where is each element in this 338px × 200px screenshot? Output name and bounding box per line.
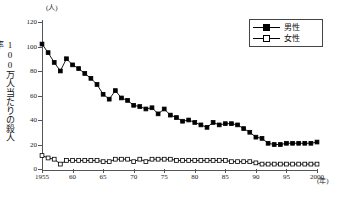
- data-point-marker: [187, 118, 191, 122]
- y-tick-label: 80: [30, 68, 37, 75]
- data-point-marker: [291, 141, 295, 145]
- data-point-marker: [113, 157, 117, 161]
- data-point-marker: [278, 162, 282, 166]
- data-point-marker: [58, 162, 62, 166]
- data-point-marker: [315, 140, 319, 144]
- y-tick-label: 100: [27, 43, 38, 50]
- x-tick-label: 75: [161, 174, 168, 181]
- data-point-marker: [71, 159, 75, 163]
- data-point-marker: [242, 160, 246, 164]
- x-tick-label: 95: [283, 174, 290, 181]
- data-point-marker: [260, 162, 264, 166]
- x-tick-label: 90: [252, 174, 259, 181]
- data-point-marker: [211, 159, 215, 163]
- data-point-marker: [175, 116, 179, 120]
- data-point-marker: [77, 67, 81, 71]
- data-point-marker: [205, 125, 209, 129]
- data-point-marker: [254, 135, 258, 139]
- data-point-marker: [77, 159, 81, 163]
- data-point-marker: [199, 159, 203, 163]
- data-point-marker: [156, 157, 160, 161]
- series-line-male: [42, 44, 317, 144]
- data-point-marker: [120, 157, 124, 161]
- data-point-marker: [291, 162, 295, 166]
- x-tick-label: 60: [69, 174, 76, 181]
- data-point-marker: [242, 127, 246, 131]
- y-tick-label: 0: [34, 166, 38, 173]
- data-point-marker: [187, 159, 191, 163]
- x-tick-label: 1955: [35, 174, 49, 181]
- data-point-marker: [254, 161, 258, 165]
- data-point-marker: [150, 106, 154, 110]
- data-point-marker: [40, 42, 44, 46]
- data-point-marker: [285, 162, 289, 166]
- data-point-marker: [65, 57, 69, 61]
- data-point-marker: [168, 113, 172, 117]
- data-point-marker: [156, 112, 160, 116]
- data-point-marker: [126, 157, 130, 161]
- data-point-marker: [230, 160, 234, 164]
- data-point-marker: [52, 157, 56, 161]
- data-point-marker: [101, 92, 105, 96]
- data-point-marker: [248, 160, 252, 164]
- y-axis-title: 100万人当たりの殺人率: [4, 40, 15, 150]
- legend-item-male: 男性: [253, 22, 319, 33]
- data-point-marker: [211, 121, 215, 125]
- data-point-marker: [132, 103, 136, 107]
- data-point-marker: [52, 61, 56, 65]
- data-point-marker: [236, 123, 240, 127]
- data-point-marker: [266, 141, 270, 145]
- data-point-marker: [89, 76, 93, 80]
- x-tick-label: 85: [222, 174, 229, 181]
- data-point-marker: [309, 141, 313, 145]
- legend: 男性 女性: [249, 19, 323, 47]
- data-point-marker: [217, 159, 221, 163]
- data-point-marker: [101, 160, 105, 164]
- data-point-marker: [71, 63, 75, 67]
- data-point-marker: [236, 160, 240, 164]
- data-point-marker: [95, 159, 99, 163]
- data-point-marker: [107, 160, 111, 164]
- data-point-marker: [193, 121, 197, 125]
- y-tick-label: 60: [30, 92, 37, 99]
- data-point-marker: [217, 123, 221, 127]
- data-point-marker: [285, 141, 289, 145]
- data-point-marker: [58, 69, 62, 73]
- data-point-marker: [40, 154, 44, 158]
- data-point-marker: [162, 107, 166, 111]
- x-tick-label: 2000: [310, 174, 324, 181]
- data-point-marker: [315, 162, 319, 166]
- data-point-marker: [113, 89, 117, 93]
- data-point-marker: [132, 160, 136, 164]
- data-point-marker: [46, 51, 50, 55]
- x-tick-label: 65: [100, 174, 107, 181]
- data-point-marker: [266, 162, 270, 166]
- data-point-marker: [95, 83, 99, 87]
- data-point-marker: [278, 143, 282, 147]
- data-point-marker: [175, 159, 179, 163]
- legend-marker-open-square-icon: [253, 33, 280, 44]
- legend-marker-filled-square-icon: [253, 22, 280, 33]
- data-point-marker: [309, 162, 313, 166]
- data-point-marker: [83, 72, 87, 76]
- data-point-marker: [230, 122, 234, 126]
- data-point-marker: [181, 159, 185, 163]
- data-point-marker: [138, 157, 142, 161]
- x-tick-label: 80: [191, 174, 198, 181]
- data-point-marker: [223, 122, 227, 126]
- data-point-marker: [126, 99, 130, 103]
- data-point-marker: [138, 105, 142, 109]
- data-point-marker: [199, 123, 203, 127]
- y-tick-label: 120: [27, 19, 38, 26]
- legend-item-female: 女性: [253, 33, 319, 44]
- x-tick-label: 70: [130, 174, 137, 181]
- data-point-marker: [297, 162, 301, 166]
- data-point-marker: [83, 159, 87, 163]
- data-point-marker: [65, 159, 69, 163]
- data-point-marker: [297, 141, 301, 145]
- data-point-marker: [107, 97, 111, 101]
- data-point-marker: [272, 143, 276, 147]
- data-point-marker: [303, 162, 307, 166]
- data-point-marker: [223, 159, 227, 163]
- data-point-marker: [248, 130, 252, 134]
